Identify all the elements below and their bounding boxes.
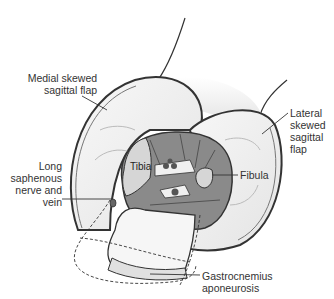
fibula-bone [196,168,213,188]
illustration: Tibia [0,0,334,299]
tibia-label: Tibia [130,161,152,172]
fibula-label: Fibula [240,169,269,181]
amputation-diagram: Tibia Medial skewed sagittal flap Latera… [0,0,334,299]
lateral-flap-label: Lateral skewed sagittal flap [290,107,326,155]
saphenous-vein-marker [110,199,116,207]
gastrocnemius-label: Gastrocnemius aponeurosis [202,270,273,294]
saphenous-label: Long saphenous nerve and vein [10,160,62,208]
medial-flap-label: Medial skewed sagittal flap [22,72,97,96]
